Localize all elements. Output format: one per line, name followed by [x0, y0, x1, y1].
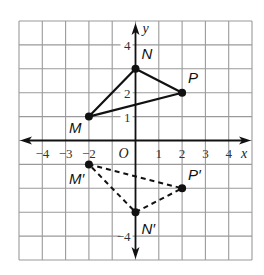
- y-axis-label: y: [141, 21, 150, 36]
- vertex-label: P: [188, 69, 198, 86]
- x-tick-label: −2: [82, 146, 96, 161]
- vertex-label: N′: [142, 220, 157, 237]
- x-axis-label: x: [240, 146, 248, 161]
- x-tick-label: 1: [156, 146, 163, 161]
- x-tick-label: −3: [59, 146, 73, 161]
- vertex-label: P′: [188, 166, 202, 183]
- x-tick-label: 2: [179, 146, 186, 161]
- vertex-label: M′: [69, 170, 85, 187]
- y-tick-label: 1: [124, 110, 131, 125]
- vertex-point: [85, 160, 93, 168]
- vertex-label: M: [69, 119, 82, 136]
- x-tick-label: 3: [202, 146, 209, 161]
- y-tick-label: −4: [117, 229, 131, 244]
- axes: [20, 23, 251, 259]
- y-tick-label: 2: [124, 86, 131, 101]
- triangle-mnp: NPM: [69, 45, 198, 136]
- vertex-point: [132, 65, 140, 73]
- vertex-point: [178, 89, 186, 97]
- y-tick-label: 4: [124, 38, 131, 53]
- x-tick-label: −4: [35, 146, 49, 161]
- x-tick-label: 4: [225, 146, 232, 161]
- vertex-point: [85, 113, 93, 121]
- origin-label: O: [118, 146, 128, 161]
- vertex-point: [132, 208, 140, 216]
- vertex-point: [178, 184, 186, 192]
- coordinate-plane: −4−3−21234421−4Oxy NPM N′P′M′: [0, 0, 264, 275]
- vertex-label: N: [142, 45, 153, 62]
